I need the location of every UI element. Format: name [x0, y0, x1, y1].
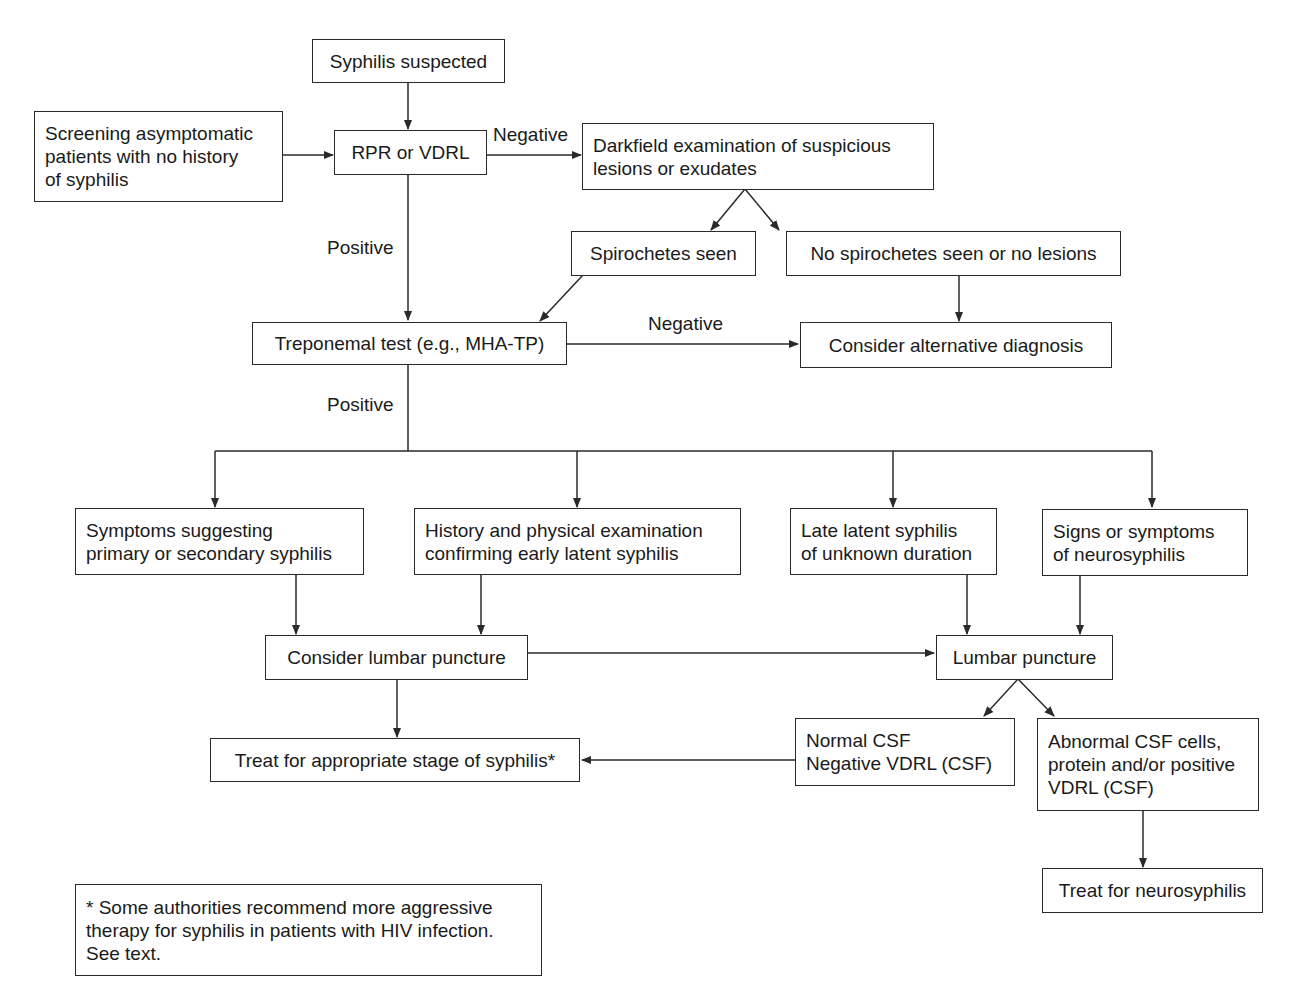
node-consider-lumbar-puncture: Consider lumbar puncture: [265, 635, 528, 680]
node-abnormal-csf: Abnormal CSF cells, protein and/or posit…: [1037, 718, 1259, 811]
arrow-lp-to-normal-csf: [984, 679, 1018, 716]
node-no-spirochetes: No spirochetes seen or no lesions: [786, 231, 1121, 276]
node-text: History and physical examination: [425, 519, 730, 542]
node-treponemal-test: Treponemal test (e.g., MHA-TP): [252, 322, 567, 365]
footnote-text: therapy for syphilis in patients with HI…: [86, 919, 531, 942]
node-text: RPR or VDRL: [351, 141, 469, 164]
edge-label-treponemal-positive: Positive: [327, 394, 394, 416]
arrow-darkfield-to-spirochetes-seen: [711, 189, 745, 230]
node-text: Syphilis suspected: [330, 50, 487, 73]
node-lumbar-puncture: Lumbar puncture: [936, 635, 1113, 680]
node-text: No spirochetes seen or no lesions: [810, 242, 1096, 265]
node-text: protein and/or positive: [1048, 753, 1248, 776]
node-text: Late latent syphilis: [801, 519, 986, 542]
node-text: Consider alternative diagnosis: [829, 334, 1084, 357]
node-text: Normal CSF: [806, 729, 1004, 752]
arrow-spirochetes-to-treponemal: [540, 275, 583, 321]
node-text: of unknown duration: [801, 542, 986, 565]
node-text: of syphilis: [45, 168, 272, 191]
node-treat-neurosyphilis: Treat for neurosyphilis: [1042, 868, 1263, 913]
node-primary-secondary-symptoms: Symptoms suggesting primary or secondary…: [75, 508, 364, 575]
footnote-text: * Some authorities recommend more aggres…: [86, 896, 531, 919]
node-text: VDRL (CSF): [1048, 776, 1248, 799]
node-rpr-or-vdrl: RPR or VDRL: [334, 130, 487, 175]
node-text: primary or secondary syphilis: [86, 542, 353, 565]
node-early-latent: History and physical examination confirm…: [414, 508, 741, 575]
arrow-lp-to-abnormal-csf: [1018, 679, 1054, 716]
node-text: Darkfield examination of suspicious: [593, 134, 923, 157]
node-treat-appropriate-stage: Treat for appropriate stage of syphilis*: [210, 738, 580, 782]
node-text: Abnormal CSF cells,: [1048, 730, 1248, 753]
node-late-latent: Late latent syphilis of unknown duration: [790, 508, 997, 575]
node-normal-csf: Normal CSF Negative VDRL (CSF): [795, 718, 1015, 786]
edge-label-rpr-negative: Negative: [493, 124, 568, 146]
node-darkfield-examination: Darkfield examination of suspicious lesi…: [582, 123, 934, 190]
node-neurosyphilis-signs: Signs or symptoms of neurosyphilis: [1042, 509, 1248, 576]
node-syphilis-suspected: Syphilis suspected: [312, 39, 505, 83]
footnote-box: * Some authorities recommend more aggres…: [75, 884, 542, 976]
node-spirochetes-seen: Spirochetes seen: [571, 231, 756, 276]
node-text: Treat for neurosyphilis: [1059, 879, 1246, 902]
arrow-darkfield-to-no-spirochetes: [745, 189, 779, 230]
node-text: Spirochetes seen: [590, 242, 737, 265]
node-text: lesions or exudates: [593, 157, 923, 180]
node-text: Treat for appropriate stage of syphilis*: [235, 749, 555, 772]
node-text: confirming early latent syphilis: [425, 542, 730, 565]
node-text: Consider lumbar puncture: [287, 646, 506, 669]
node-text: Signs or symptoms: [1053, 520, 1237, 543]
node-consider-alternative-diagnosis: Consider alternative diagnosis: [800, 322, 1112, 368]
node-text: Negative VDRL (CSF): [806, 752, 1004, 775]
node-text: Screening asymptomatic: [45, 122, 272, 145]
edge-label-rpr-positive: Positive: [327, 237, 394, 259]
footnote-text: See text.: [86, 942, 531, 965]
node-text: Symptoms suggesting: [86, 519, 353, 542]
node-screening-asymptomatic: Screening asymptomatic patients with no …: [34, 111, 283, 202]
node-text: patients with no history: [45, 145, 272, 168]
node-text: Treponemal test (e.g., MHA-TP): [275, 332, 545, 355]
node-text: of neurosyphilis: [1053, 543, 1237, 566]
edge-label-treponemal-negative: Negative: [648, 313, 723, 335]
node-text: Lumbar puncture: [953, 646, 1097, 669]
